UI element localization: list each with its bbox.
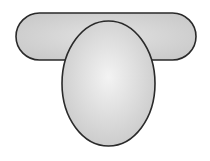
diagram-canvas bbox=[0, 0, 210, 161]
vertical-ellipse-shape bbox=[62, 21, 155, 146]
